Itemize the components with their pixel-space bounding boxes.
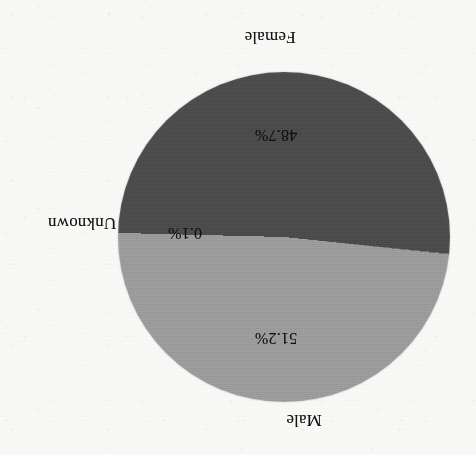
pie-value-female: 51.2% bbox=[255, 329, 297, 347]
pie-label-female: Female bbox=[244, 27, 295, 47]
pie-value-unknown: 0.1% bbox=[168, 224, 202, 242]
pie-value-male: 48.7% bbox=[255, 126, 297, 144]
pie-chart-figure: Male Female Unknown 48.7% 51.2% 0.1% bbox=[0, 0, 476, 455]
scanned-page: Male Female Unknown 48.7% 51.2% 0.1% bbox=[0, 0, 476, 455]
pie-label-unknown: Unknown bbox=[48, 213, 116, 233]
pie-label-male: Male bbox=[286, 410, 322, 430]
